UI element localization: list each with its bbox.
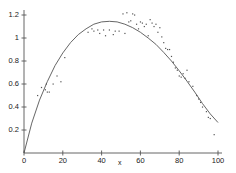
x-axis-title: x (118, 159, 122, 166)
scatter-point (93, 31, 94, 32)
scatter-point (87, 32, 88, 33)
scatter-point (183, 73, 184, 74)
scatter-point (153, 26, 154, 27)
scatter-point (53, 83, 54, 84)
scatter-point (148, 35, 149, 36)
scatter-point (64, 57, 65, 58)
fitted-curve-line (24, 21, 218, 153)
scatter-point (177, 70, 178, 71)
scatter-point (97, 29, 98, 30)
scatter-point (206, 111, 207, 112)
scatter-point (124, 33, 125, 34)
x-tick-label: 0 (14, 157, 34, 165)
scatter-point (126, 12, 127, 13)
y-tick-label: 1 (15, 34, 19, 42)
scatter-point (47, 92, 48, 93)
scatter-point (151, 23, 152, 24)
scatter-point (150, 19, 151, 20)
scatter-point (45, 89, 46, 90)
scatter-point (161, 36, 162, 37)
scatter-point (105, 35, 106, 36)
scatter-point (163, 42, 164, 43)
scatter-point (184, 78, 185, 79)
scatter-point (113, 34, 114, 35)
scatter-point (140, 21, 141, 22)
scatter-plot-canvas (0, 0, 236, 173)
scatter-point (159, 27, 160, 28)
scatter-point (169, 49, 170, 50)
scatter-point (119, 31, 120, 32)
scatter-point (144, 26, 145, 27)
x-tick-label: 80 (169, 157, 189, 165)
scatter-point (181, 77, 182, 78)
scatter-point (214, 134, 215, 135)
scatter-point (157, 32, 158, 33)
scatter-point (175, 67, 176, 68)
scatter-point (171, 56, 172, 57)
scatter-point (99, 33, 100, 34)
scatter-point (165, 48, 166, 49)
y-tick-label: 0.4 (9, 103, 19, 111)
scatter-point (56, 75, 57, 76)
y-tick-label: 1.2 (9, 11, 19, 19)
scatter-point (132, 13, 133, 14)
scatter-point (134, 14, 135, 15)
scatter-point (167, 49, 168, 50)
chart-figure: 0.20.40.60.811.2 020406080100 x (0, 0, 236, 173)
scatter-point (41, 87, 42, 88)
y-tick-label: 0.6 (9, 80, 19, 88)
x-tick-label: 60 (130, 157, 150, 165)
scatter-point (46, 83, 47, 84)
scatter-point (173, 62, 174, 63)
scatter-point (122, 13, 123, 14)
scatter-point (200, 102, 201, 103)
scatter-point (188, 81, 189, 82)
scatter-point-group (37, 12, 215, 135)
scatter-point (37, 95, 38, 96)
x-tick-label: 40 (92, 157, 112, 165)
y-tick-label: 0.2 (9, 126, 19, 134)
scatter-point (103, 29, 104, 30)
scatter-point (179, 75, 180, 76)
scatter-point (115, 31, 116, 32)
scatter-point (198, 98, 199, 99)
scatter-point (210, 118, 211, 119)
scatter-point (142, 23, 143, 24)
scatter-point (130, 20, 131, 21)
scatter-point (208, 117, 209, 118)
scatter-point (109, 29, 110, 30)
scatter-point (146, 24, 147, 25)
scatter-point (128, 21, 129, 22)
y-tick-label: 0.8 (9, 57, 19, 65)
scatter-point (192, 86, 193, 87)
scatter-point (196, 95, 197, 96)
axis-lines (24, 10, 222, 153)
scatter-point (91, 28, 92, 29)
scatter-point (136, 24, 137, 25)
x-tick-label: 100 (208, 157, 228, 165)
x-tick-label: 20 (53, 157, 73, 165)
scatter-point (186, 70, 187, 71)
scatter-point (60, 81, 61, 82)
scatter-point (138, 28, 139, 29)
scatter-point (49, 92, 50, 93)
scatter-point (202, 106, 203, 107)
scatter-point (155, 24, 156, 25)
